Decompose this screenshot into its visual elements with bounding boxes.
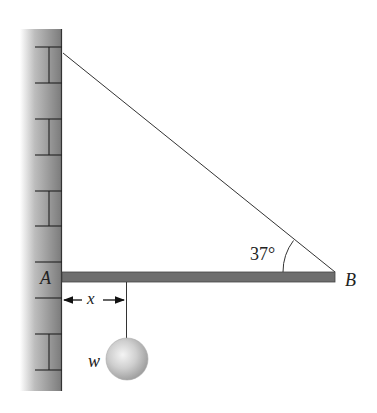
angle-arc bbox=[283, 241, 294, 273]
pivot-label-a: A bbox=[39, 268, 52, 288]
weight-label-w: w bbox=[88, 351, 100, 371]
angle-label: 37° bbox=[250, 244, 275, 264]
diagram-canvas: 37° A B x w bbox=[0, 0, 377, 413]
distance-label-x: x bbox=[86, 289, 95, 308]
end-label-b: B bbox=[345, 270, 356, 290]
beam bbox=[62, 272, 335, 282]
weight-ball bbox=[106, 338, 148, 380]
cable bbox=[63, 53, 335, 272]
brick-wall bbox=[20, 29, 62, 391]
distance-x-indicator: x bbox=[64, 289, 124, 308]
